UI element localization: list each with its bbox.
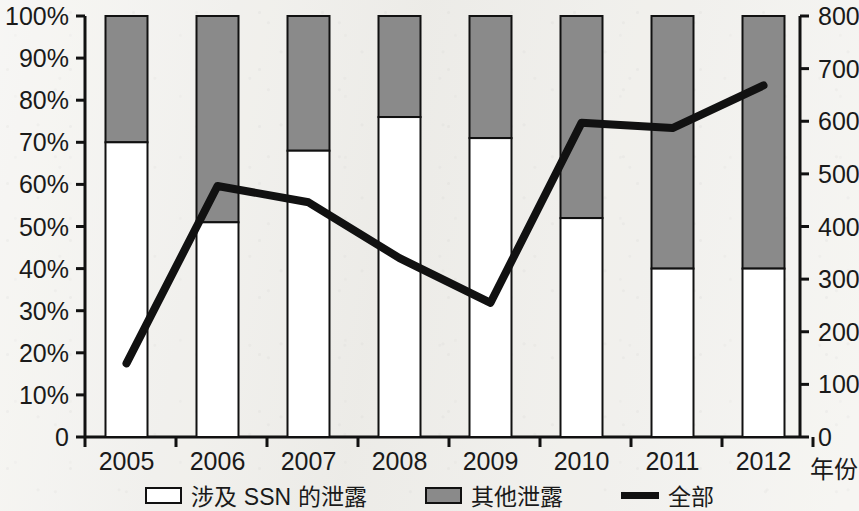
bar-segment-ssn [197, 222, 239, 437]
bar-segment-ssn [106, 142, 148, 437]
axes-group [76, 16, 813, 447]
gray-box-swatch-icon [425, 487, 462, 504]
bar-segment-other [470, 16, 512, 138]
bar-segment-other [288, 16, 330, 151]
legend-label-total: 全部 [668, 478, 714, 511]
bar-segment-other [743, 16, 785, 269]
legend-item-total: 全部 [621, 478, 714, 511]
plot-area [0, 0, 859, 511]
bar-segment-ssn [561, 218, 603, 437]
bar-segment-other [106, 16, 148, 142]
chart-figure: 010%20%30%40%50%60%70%80%90%100% 0100200… [0, 0, 859, 511]
bar-segment-ssn [288, 151, 330, 437]
bar-segment-ssn [470, 138, 512, 437]
black-line-swatch-icon [621, 492, 659, 499]
legend-label-other: 其他泄露 [471, 478, 563, 511]
legend-item-ssn: 涉及 SSN 的泄露 [145, 478, 366, 511]
legend-label-ssn: 涉及 SSN 的泄露 [191, 478, 366, 511]
bar-segment-ssn [743, 269, 785, 437]
bar-segment-ssn [652, 269, 694, 437]
legend-item-other: 其他泄露 [425, 478, 563, 511]
bar-segment-other [561, 16, 603, 218]
stacked-bars-group [106, 16, 785, 437]
chart-legend: 涉及 SSN 的泄露 其他泄露 全部 [0, 478, 859, 511]
bar-segment-other [379, 16, 421, 117]
bar-segment-other [652, 16, 694, 269]
white-box-swatch-icon [145, 487, 182, 504]
bar-segment-ssn [379, 117, 421, 437]
